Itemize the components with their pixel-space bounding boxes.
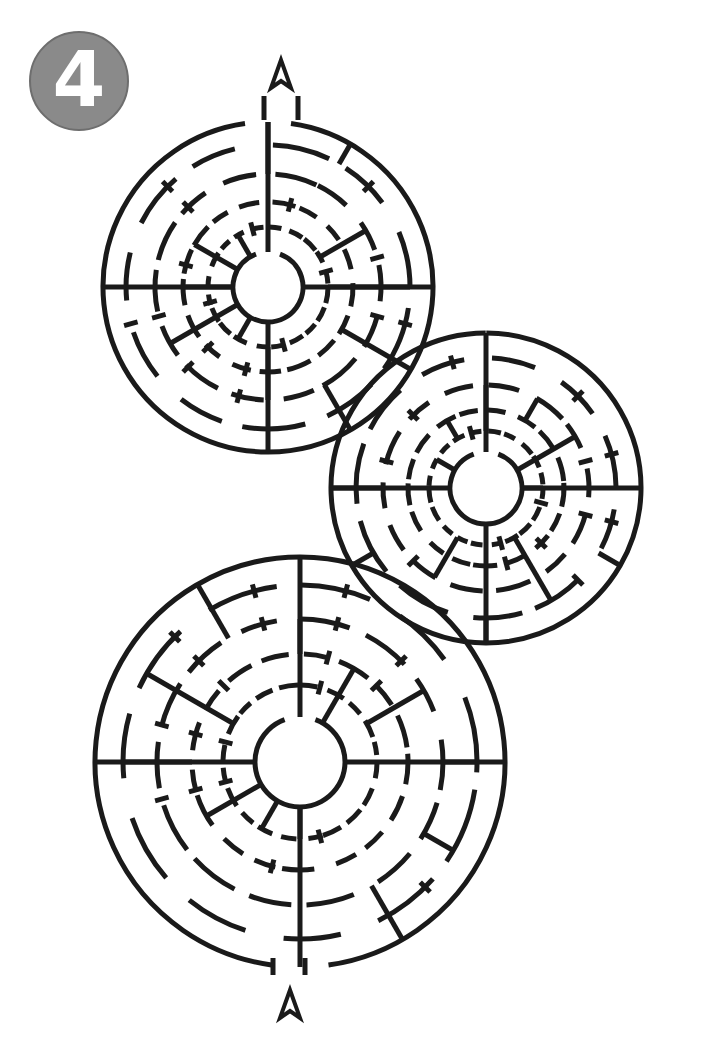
maze-ring-segment bbox=[376, 685, 392, 705]
maze-ring-segment bbox=[346, 168, 383, 203]
maze-ring-segment bbox=[440, 740, 443, 790]
maze-ring-segment bbox=[540, 431, 553, 448]
maze-spoke bbox=[238, 235, 251, 257]
maze-ring-segment bbox=[189, 900, 245, 930]
maze-ring-segment bbox=[406, 754, 408, 785]
maze-ring-segment bbox=[432, 507, 439, 520]
maze-tick bbox=[179, 263, 193, 267]
maze-ring-segment bbox=[183, 279, 185, 305]
maze-ring-segment bbox=[318, 340, 334, 355]
entrance-arrow-icon bbox=[271, 60, 291, 88]
maze-spoke bbox=[198, 585, 229, 639]
maze-tick bbox=[579, 513, 593, 517]
maze-ring-segment bbox=[347, 810, 360, 823]
maze-spoke bbox=[525, 399, 538, 421]
maze-ring-segment bbox=[229, 666, 252, 681]
maze-ring-segment bbox=[223, 768, 225, 781]
maze-ring-segment bbox=[307, 895, 354, 905]
maze-ring-segment bbox=[379, 265, 381, 301]
maze-spoke bbox=[599, 553, 621, 566]
maze-tick bbox=[282, 338, 286, 352]
maze-tick bbox=[451, 356, 455, 370]
maze-spoke bbox=[424, 834, 454, 851]
maze-ring-segment bbox=[398, 716, 408, 748]
maze-canvas bbox=[0, 0, 708, 1056]
maze-tick bbox=[370, 256, 384, 260]
exit-arrow-icon bbox=[280, 990, 300, 1018]
maze-ring-segment bbox=[452, 558, 470, 564]
maze-ring-segment bbox=[429, 476, 430, 486]
maze-ring-segment bbox=[242, 424, 305, 429]
maze-spoke bbox=[194, 245, 237, 270]
maze-ring-segment bbox=[213, 212, 228, 222]
maze-ring-segment bbox=[323, 827, 341, 835]
maze-ring-segment bbox=[422, 360, 464, 375]
maze-tick bbox=[189, 788, 203, 792]
maze-ring-segment bbox=[220, 323, 231, 334]
maze-ring-segment bbox=[195, 859, 235, 890]
maze-ring-segment bbox=[318, 307, 325, 321]
maze-tick bbox=[155, 797, 169, 801]
maze-ring-segment bbox=[304, 239, 315, 250]
maze-tick bbox=[370, 314, 384, 318]
maze-ring-segment bbox=[290, 336, 303, 343]
maze-ring-segment bbox=[209, 587, 277, 611]
maze-ring-segment bbox=[504, 434, 515, 439]
maze-ring-segment bbox=[361, 223, 375, 250]
maze-ring-segment bbox=[141, 179, 176, 223]
maze-ring-segment bbox=[587, 469, 589, 498]
maze-ring-segment bbox=[378, 854, 410, 882]
maze-spoke bbox=[323, 669, 355, 724]
maze-ring-segment bbox=[390, 525, 404, 550]
maze-ring-segment bbox=[558, 458, 564, 481]
maze-ring-segment bbox=[240, 703, 250, 714]
maze-ring-segment bbox=[273, 145, 329, 159]
maze-ring-segment bbox=[241, 621, 276, 632]
maze-ring-segment bbox=[223, 175, 256, 184]
maze-tick bbox=[252, 584, 256, 598]
maze-ring-segment bbox=[157, 742, 159, 788]
maze-tick bbox=[380, 460, 394, 464]
maze-tick bbox=[203, 301, 217, 305]
maze-ring-segment bbox=[164, 805, 187, 850]
maze-tick bbox=[318, 830, 322, 844]
maze-ring-segment bbox=[536, 398, 562, 419]
entrance-channel-walls bbox=[264, 96, 298, 120]
maze-ring-segment bbox=[488, 431, 501, 433]
maze-tick bbox=[189, 732, 203, 736]
maze-ring-segment bbox=[421, 803, 438, 839]
maze-ring-segment bbox=[546, 554, 565, 572]
maze-tick bbox=[237, 389, 241, 403]
maze-ring-segment bbox=[239, 203, 259, 208]
maze-ring-segment bbox=[133, 332, 157, 376]
maze-spoke bbox=[447, 421, 458, 439]
maze-ring-segment bbox=[460, 410, 478, 414]
maze-ring-segment bbox=[193, 149, 235, 167]
maze-tick bbox=[270, 860, 274, 874]
maze-ring-segment bbox=[284, 390, 314, 399]
maze-ring-segment bbox=[284, 934, 341, 939]
maze-ring-segment bbox=[471, 543, 483, 545]
maze-ring-segment bbox=[429, 490, 431, 503]
maze-tick bbox=[318, 681, 322, 695]
maze-ring-segment bbox=[126, 253, 130, 301]
maze-tick bbox=[499, 536, 503, 550]
maze-ring-segment bbox=[306, 324, 315, 333]
maze-center-wall bbox=[450, 454, 522, 524]
maze-ring-segment bbox=[399, 232, 410, 288]
maze-spoke bbox=[320, 231, 366, 258]
maze-ring-segment bbox=[349, 703, 360, 714]
maze-spoke bbox=[372, 886, 403, 940]
maze-ring-segment bbox=[430, 543, 443, 554]
maze-ring-segment bbox=[224, 839, 243, 854]
maze-ring-segment bbox=[279, 685, 298, 688]
maze-tick bbox=[534, 501, 548, 505]
maze-tick bbox=[319, 270, 333, 274]
maze-ring-segment bbox=[249, 896, 291, 905]
maze-ring-segment bbox=[336, 854, 356, 863]
maze-ring-segment bbox=[366, 832, 383, 848]
maze-ring-segment bbox=[132, 818, 166, 878]
maze-tick bbox=[124, 322, 138, 326]
maze-ring-segment bbox=[304, 654, 329, 658]
maze-ring-segment bbox=[409, 459, 414, 479]
